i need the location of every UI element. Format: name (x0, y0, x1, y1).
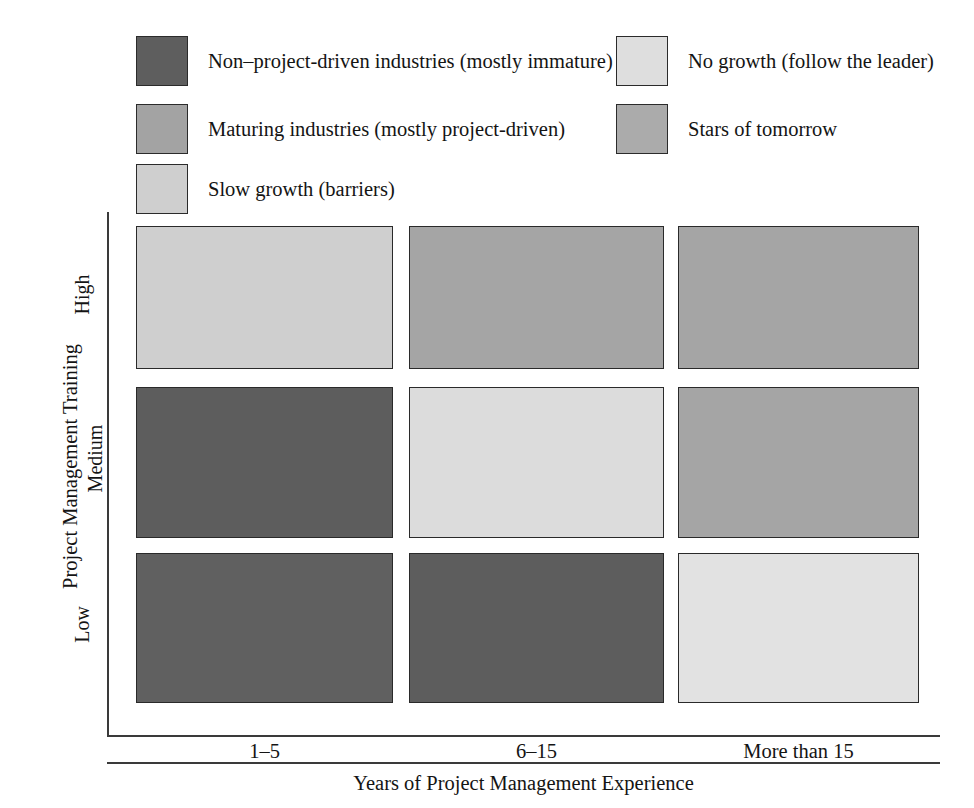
y-axis-title: Project Management Training (59, 207, 82, 727)
matrix-cell-high-more-than-15 (678, 226, 919, 369)
matrix-cell-high-6-15 (409, 226, 664, 369)
matrix-cell-medium-1-5 (136, 387, 393, 538)
matrix-chart: High Medium Low Project Management Train… (0, 0, 974, 808)
x-axis-title: Years of Project Management Experience (107, 772, 940, 795)
x-axis-tick-1-5: 1–5 (136, 740, 393, 763)
x-axis-line (107, 735, 940, 737)
matrix-cell-low-1-5 (136, 553, 393, 703)
matrix-cell-medium-more-than-15 (678, 387, 919, 538)
matrix-cell-high-1-5 (136, 226, 393, 369)
matrix-cell-low-6-15 (409, 553, 664, 703)
matrix-cell-medium-6-15 (409, 387, 664, 538)
x-axis-tick-more-than-15: More than 15 (678, 740, 919, 763)
y-axis-tick-medium-text: Medium (84, 425, 107, 493)
matrix-cell-low-more-than-15 (678, 553, 919, 703)
x-axis-tick-6-15: 6–15 (409, 740, 664, 763)
